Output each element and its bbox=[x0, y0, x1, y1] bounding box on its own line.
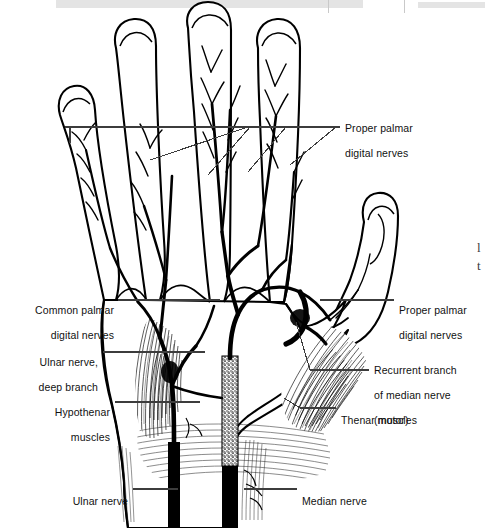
label-proper-palmar-digital-nerves-right: Proper palmar digital nerves bbox=[399, 292, 485, 354]
ulnar-nerve-trunk bbox=[168, 442, 180, 528]
label-line: Recurrent branch bbox=[374, 364, 484, 376]
label-median-nerve: Median nerve bbox=[302, 483, 392, 520]
ulnar-nerve-deep-branch-node bbox=[161, 361, 179, 383]
label-line: Ulnar nerve, bbox=[10, 356, 98, 368]
label-line: digital nerves bbox=[399, 329, 485, 341]
label-line: Proper palmar bbox=[399, 304, 485, 316]
label-line: Hypothenar bbox=[25, 406, 110, 418]
label-ulnar-nerve: Ulnar nerve bbox=[55, 483, 128, 520]
label-hypothenar-muscles: Hypothenar muscles bbox=[25, 394, 110, 456]
label-line: Ulnar nerve bbox=[55, 495, 128, 507]
label-proper-palmar-digital-nerves-top: Proper palmar digital nerves bbox=[345, 110, 441, 172]
label-line: Median nerve bbox=[302, 495, 392, 507]
index-finger-outline bbox=[257, 19, 300, 302]
label-line: digital nerves bbox=[8, 329, 114, 341]
label-line: Proper palmar bbox=[345, 122, 441, 134]
label-thenar-muscles: Thenar muscles bbox=[341, 402, 441, 439]
label-line: Common palmar bbox=[8, 304, 114, 316]
little-finger-outline bbox=[59, 86, 119, 300]
median-nerve-carpal-tunnel-stipple bbox=[222, 356, 238, 466]
label-line: deep branch bbox=[10, 381, 98, 393]
label-line: digital nerves bbox=[345, 147, 441, 159]
label-line: of median nerve bbox=[374, 389, 484, 401]
median-nerve-trunk-distal bbox=[222, 462, 238, 528]
label-line: muscles bbox=[25, 431, 110, 443]
anatomical-figure-hand-nerves: l t bbox=[0, 0, 485, 528]
label-line: Thenar muscles bbox=[341, 414, 441, 426]
